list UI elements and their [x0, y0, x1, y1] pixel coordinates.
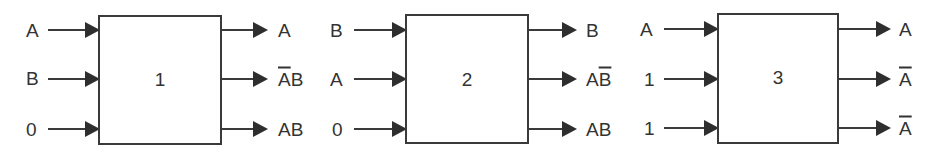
- block-2-output-arrow-2: [529, 78, 575, 80]
- block-3-output-arrow-2: [839, 78, 889, 80]
- gate-block-3: A 1 1 3 A A A: [620, 0, 939, 157]
- block-3-output-arrow-1: [839, 28, 889, 30]
- gate-block-2: B A 0 2 B AB AB: [310, 0, 620, 157]
- block-2-input-arrow-1: [354, 29, 405, 31]
- block-1-output-arrow-3: [222, 128, 266, 130]
- block-2-input-arrow-3: [354, 128, 405, 130]
- block-2-output-1: B: [586, 21, 599, 40]
- block-3-output-2: A: [899, 70, 912, 89]
- block-2-label: 2: [462, 69, 473, 91]
- block-2-output-arrow-1: [529, 29, 575, 31]
- block-3-output-arrow-3: [839, 127, 889, 129]
- block-1-input-3: 0: [26, 120, 37, 139]
- block-2-output-arrow-3: [529, 128, 575, 130]
- block-2-output-2: AB: [586, 70, 611, 89]
- block-1-input-arrow-2: [48, 78, 98, 80]
- block-3-input-arrow-1: [664, 28, 717, 30]
- block-3-input-2: 1: [644, 70, 655, 89]
- block-1-input-2: B: [26, 69, 39, 88]
- block-1-input-arrow-3: [48, 128, 98, 130]
- block-3-input-3: 1: [644, 119, 655, 138]
- block-3-input-1: A: [640, 20, 653, 39]
- block-2-output-3: AB: [586, 120, 611, 139]
- block-1-output-2: AB: [278, 70, 303, 89]
- block-2-input-1: B: [330, 21, 343, 40]
- block-2-input-3: 0: [332, 120, 343, 139]
- block-1-input-1: A: [26, 21, 39, 40]
- block-1-label: 1: [155, 69, 166, 91]
- block-3-input-arrow-3: [664, 127, 717, 129]
- block-3-input-arrow-2: [664, 78, 717, 80]
- block-1-output-3: AB: [278, 120, 303, 139]
- gate-block-1: A B 0 1 A AB AB: [0, 0, 310, 157]
- block-3-output-1: A: [899, 20, 912, 39]
- block-1-input-arrow-1: [48, 29, 98, 31]
- block-2-input-2: A: [330, 70, 343, 89]
- block-2-input-arrow-2: [354, 78, 405, 80]
- block-1-output-arrow-2: [222, 78, 266, 80]
- block-3-label: 3: [773, 67, 784, 89]
- block-1-output-1: A: [278, 21, 291, 40]
- block-3-output-3: A: [899, 119, 912, 138]
- block-1-output-arrow-1: [222, 29, 266, 31]
